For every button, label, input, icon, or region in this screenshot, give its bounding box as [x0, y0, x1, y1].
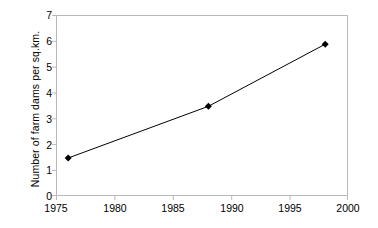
x-tick-label: 1995 [268, 203, 312, 214]
line-chart: Number of farm dams per sq.km. 7 6 5 4 3… [0, 0, 378, 228]
x-tick-label: 1985 [151, 203, 195, 214]
x-tick-label: 1980 [93, 203, 137, 214]
x-tick-label: 1975 [34, 203, 78, 214]
x-tick-label: 2000 [326, 203, 370, 214]
x-tick-label: 1990 [210, 203, 254, 214]
x-axis-tick-labels: 1975 1980 1985 1990 1995 2000 [0, 0, 378, 228]
